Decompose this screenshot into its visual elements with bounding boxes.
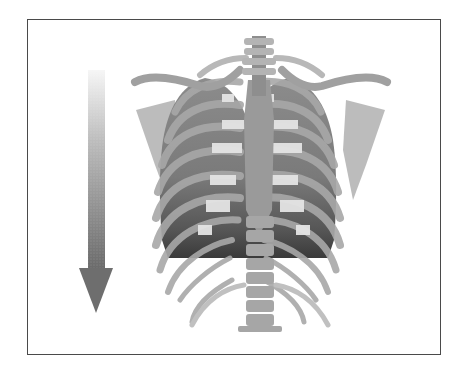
down-arrow-icon — [79, 70, 113, 313]
scapula-right — [343, 100, 385, 200]
thorax-illustration — [0, 0, 467, 380]
sternum — [244, 80, 274, 230]
